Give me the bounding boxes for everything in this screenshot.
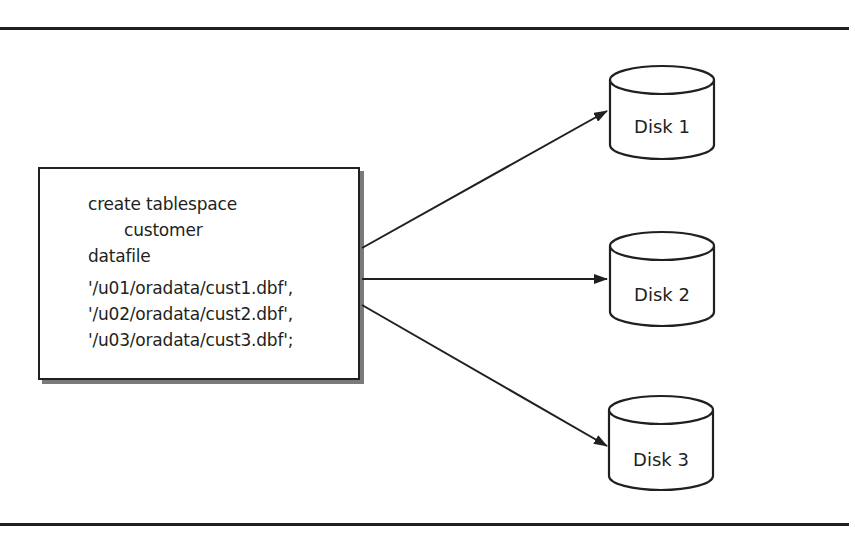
- arrow-to-disk-3: [362, 305, 607, 446]
- disk-3-cylinder-icon: [609, 396, 713, 490]
- arrow-to-disk-1: [362, 111, 607, 248]
- disk-1-label: Disk 1: [612, 116, 712, 137]
- diagram-canvas: [0, 0, 855, 540]
- disk-2-label: Disk 2: [612, 284, 712, 305]
- disk-3-label: Disk 3: [611, 449, 711, 470]
- bottom-rule: [0, 523, 849, 526]
- disk-2-cylinder-icon: [610, 232, 714, 326]
- disk-1-cylinder-icon: [610, 66, 714, 159]
